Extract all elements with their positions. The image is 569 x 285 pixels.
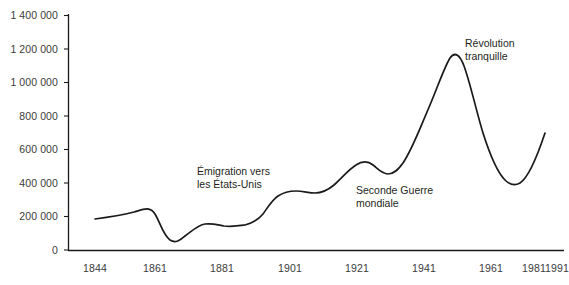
line-chart: 1 400 000 1 200 000 1 000 000 800 000 60… — [0, 0, 569, 285]
chart-container: 1 400 000 1 200 000 1 000 000 800 000 60… — [0, 0, 569, 285]
annotation-emigration: Émigration vers les États-Unis — [197, 165, 270, 190]
annotation-seconde-guerre-mondiale: Seconde Guerre mondiale — [356, 184, 433, 209]
y-axis-group: 1 400 000 1 200 000 1 000 000 800 000 60… — [10, 9, 68, 256]
x-tick-label: 1844 — [83, 262, 107, 274]
x-tick-label: 1941 — [412, 262, 436, 274]
x-tick-label: 1921 — [345, 262, 369, 274]
x-tick-label: 1861 — [143, 262, 167, 274]
x-tick-label: 1981 — [522, 262, 546, 274]
y-tick-label: 0 — [52, 244, 58, 256]
data-series-line — [95, 55, 545, 242]
y-tick-label: 1 200 000 — [10, 43, 58, 55]
y-tick-label: 1 000 000 — [10, 76, 58, 88]
annotation-line-1: Révolution — [465, 37, 515, 49]
y-tick-labels: 1 400 000 1 200 000 1 000 000 800 000 60… — [10, 9, 58, 256]
y-tick-marks — [64, 16, 69, 251]
annotation-line-2: les États-Unis — [197, 178, 262, 190]
x-tick-labels: 1844 1861 1881 1901 1921 1941 1961 1981 … — [83, 262, 569, 274]
annotation-line-2: tranquille — [465, 50, 508, 62]
x-tick-label: 1901 — [278, 262, 302, 274]
annotation-line-1: Émigration vers — [197, 165, 270, 177]
x-tick-label: 1881 — [210, 262, 234, 274]
y-tick-label: 800 000 — [19, 110, 58, 122]
annotation-revolution-tranquille: Révolution tranquille — [465, 37, 515, 62]
x-tick-label: 1961 — [479, 262, 503, 274]
annotation-line-1: Seconde Guerre — [356, 184, 433, 196]
annotation-line-2: mondiale — [356, 197, 399, 209]
y-tick-label: 1 400 000 — [10, 9, 58, 21]
x-tick-label: 1991 — [545, 262, 569, 274]
y-tick-label: 600 000 — [19, 143, 58, 155]
y-tick-label: 400 000 — [19, 177, 58, 189]
y-tick-label: 200 000 — [19, 210, 58, 222]
x-axis-group: 1844 1861 1881 1901 1921 1941 1961 1981 … — [68, 251, 569, 275]
